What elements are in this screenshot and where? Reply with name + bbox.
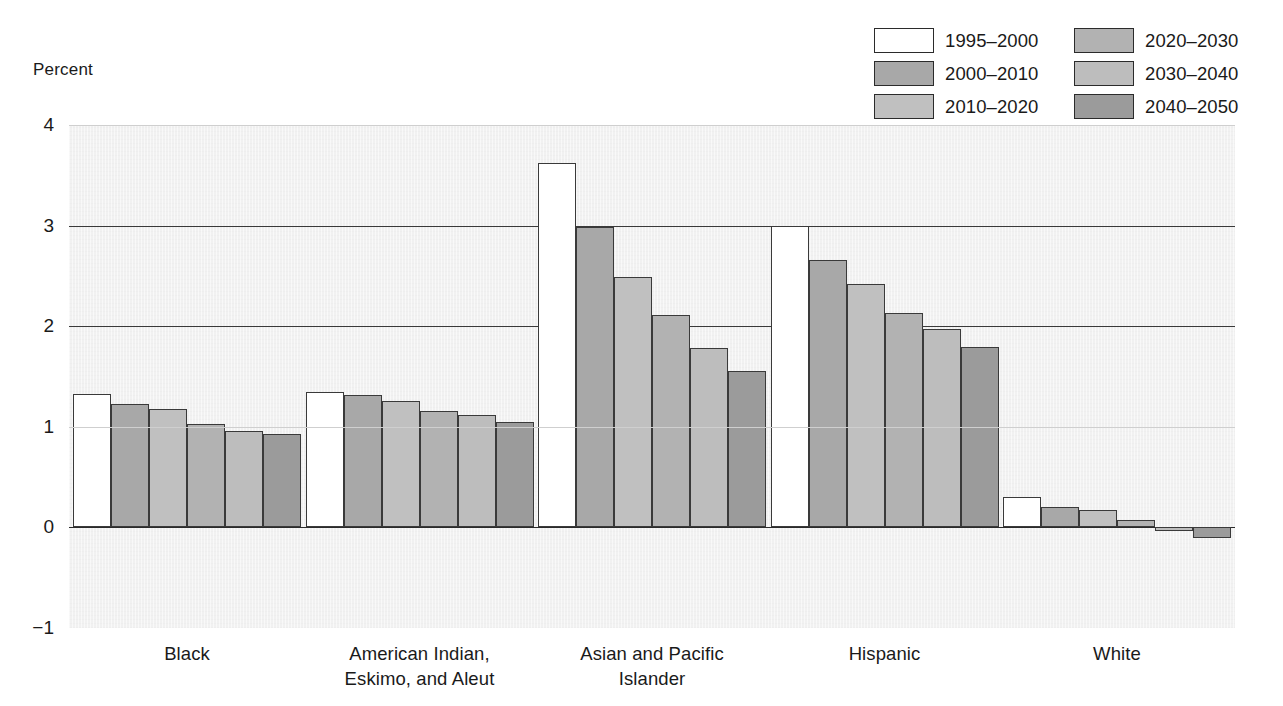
- y-axis-tick-label: −1: [14, 617, 54, 639]
- legend-item: 2020–2030: [1074, 24, 1274, 57]
- legend-swatch: [1074, 94, 1134, 119]
- y-axis-title: Percent: [33, 60, 93, 80]
- legend-item: 2000–2010: [874, 57, 1074, 90]
- bar: [496, 422, 534, 528]
- bar: [1117, 520, 1155, 527]
- legend-label: 2040–2050: [1145, 96, 1239, 118]
- growth-rate-bar-chart: Percent 1995–20002020–20302000–20102030–…: [0, 0, 1283, 706]
- bar: [1155, 527, 1193, 531]
- y-axis-tick-label: 1: [14, 416, 54, 438]
- bar: [306, 392, 344, 528]
- bar: [225, 431, 263, 528]
- plot-area: [69, 125, 1235, 628]
- legend-label: 2010–2020: [945, 96, 1039, 118]
- bar: [923, 329, 961, 527]
- bar: [111, 404, 149, 528]
- bar: [728, 371, 766, 527]
- bar: [73, 394, 111, 528]
- legend-swatch: [1074, 28, 1134, 53]
- bar: [1193, 527, 1231, 538]
- bar: [885, 313, 923, 527]
- bar: [652, 315, 690, 527]
- legend-item: 2030–2040: [1074, 57, 1274, 90]
- bar: [382, 401, 420, 528]
- legend-label: 2020–2030: [1145, 30, 1239, 52]
- bar: [690, 348, 728, 527]
- legend-swatch: [1074, 61, 1134, 86]
- bar: [1003, 497, 1041, 527]
- bar: [847, 284, 885, 527]
- bar: [961, 347, 999, 527]
- y-axis-tick-label: 2: [14, 315, 54, 337]
- bar: [420, 411, 458, 528]
- x-axis-category-label: American Indian, Eskimo, and Aleut: [345, 641, 495, 691]
- legend-item: 2010–2020: [874, 90, 1074, 123]
- chart-legend: 1995–20002020–20302000–20102030–20402010…: [874, 24, 1274, 123]
- legend-item: 2040–2050: [1074, 90, 1274, 123]
- x-axis-category-label: Black: [164, 641, 210, 666]
- y-axis-tick-label: 3: [14, 215, 54, 237]
- bar: [576, 227, 614, 528]
- gridline: [69, 427, 1235, 428]
- legend-swatch: [874, 94, 934, 119]
- y-axis-ticks: 43210−1: [14, 125, 54, 628]
- bar: [263, 434, 301, 528]
- bar: [771, 226, 809, 528]
- bar: [538, 163, 576, 527]
- x-axis-category-label: Hispanic: [849, 641, 921, 666]
- x-axis-category-labels: BlackAmerican Indian, Eskimo, and AleutA…: [69, 641, 1235, 701]
- legend-label: 1995–2000: [945, 30, 1039, 52]
- bar-series-container: [69, 125, 1235, 628]
- bar: [1041, 507, 1079, 527]
- bar: [809, 260, 847, 528]
- legend-swatch: [874, 28, 934, 53]
- bar: [344, 395, 382, 528]
- bar: [1079, 510, 1117, 527]
- bar: [614, 277, 652, 527]
- x-axis-category-label: White: [1093, 641, 1141, 666]
- x-axis-category-label: Asian and Pacific Islander: [580, 641, 724, 691]
- bar: [458, 415, 496, 528]
- legend-item: 1995–2000: [874, 24, 1074, 57]
- y-axis-tick-label: 4: [14, 114, 54, 136]
- y-axis-tick-label: 0: [14, 516, 54, 538]
- legend-label: 2000–2010: [945, 63, 1039, 85]
- legend-swatch: [874, 61, 934, 86]
- bar: [187, 424, 225, 528]
- legend-label: 2030–2040: [1145, 63, 1239, 85]
